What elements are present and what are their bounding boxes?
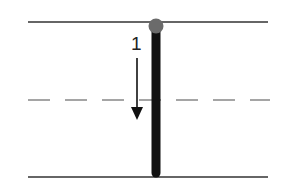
direction-arrow-icon	[131, 58, 143, 120]
handwriting-guidelines	[0, 0, 287, 195]
stroke-number-label: 1	[131, 34, 142, 53]
stroke-start-dot	[149, 19, 164, 34]
stroke-order-diagram: 1	[0, 0, 287, 195]
